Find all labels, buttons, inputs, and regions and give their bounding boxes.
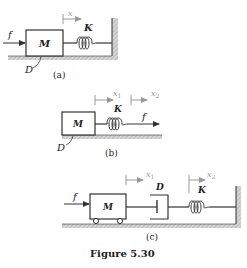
panel-a: M f K x D (a) <box>3 9 118 80</box>
wall-a <box>112 18 118 60</box>
spring-label-a: K <box>83 22 94 33</box>
displacement-label-c-2: x2 <box>207 170 216 180</box>
force-label-a: f <box>7 29 14 40</box>
displacement-arrow-b-2 <box>131 95 147 105</box>
spring-label-c: K <box>197 185 207 195</box>
mass-label-c: M <box>102 202 114 212</box>
damping-label-a: D <box>24 64 33 75</box>
spring-c <box>189 201 236 213</box>
displacement-arrow-b-1 <box>95 95 113 105</box>
panel-label-b: (b) <box>105 148 118 158</box>
displacement-arrow-c-1 <box>126 175 143 185</box>
force-label-b: f <box>141 111 148 122</box>
mass-label-b: M <box>72 119 84 129</box>
spring-label-b: K <box>113 104 123 114</box>
damping-label-b: D <box>56 142 65 153</box>
displacement-label-b-1: x1 <box>113 89 121 99</box>
displacement-label-b-2: x2 <box>151 89 160 99</box>
ground-b <box>62 135 162 139</box>
panel-label-c: (c) <box>146 232 158 242</box>
ground-c <box>62 224 240 228</box>
wheel-left <box>93 218 98 223</box>
figure-canvas: M f K x D (a) M K <box>0 0 247 268</box>
panel-c: M f D K x1 x2 (c) <box>62 170 241 242</box>
spring-a <box>63 37 112 49</box>
displacement-label-a: x <box>68 9 73 18</box>
damper-label-c: D <box>155 182 164 192</box>
wheel-right <box>117 218 122 223</box>
panel-label-a: (a) <box>53 70 65 80</box>
force-label-c: f <box>72 191 79 202</box>
mass-label-a: M <box>38 38 51 49</box>
spring-b <box>95 118 128 130</box>
panel-b: M K f x1 x2 D (b) <box>56 89 162 158</box>
figure-caption: Figure 5.30 <box>90 248 155 259</box>
displacement-label-c-1: x1 <box>146 170 154 180</box>
wall-c <box>236 186 241 228</box>
